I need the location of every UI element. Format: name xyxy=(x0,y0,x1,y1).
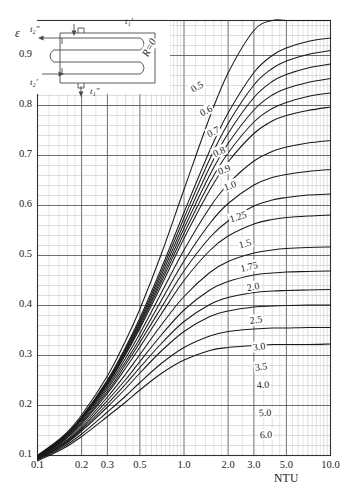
curve-label-40: 4.0 xyxy=(255,378,270,390)
y-tick-label-01: 0.1 xyxy=(2,448,32,459)
inset-label-t2-double-prime: t₂″ xyxy=(30,24,39,34)
x-tick-label-10: 1.0 xyxy=(164,459,204,470)
y-tick-label-03: 0.3 xyxy=(2,348,32,359)
x-tick-label-50: 5.0 xyxy=(266,459,306,470)
x-axis-title: NTU xyxy=(274,472,299,484)
x-tick-label-01: 0.1 xyxy=(18,459,58,470)
y-tick-label-07: 0.7 xyxy=(2,148,32,159)
heat-exchanger-inset-diagram xyxy=(0,0,347,499)
y-tick-label-02: 0.2 xyxy=(2,398,32,409)
y-axis-symbol: ε xyxy=(15,26,20,41)
chart-root: εNTU0.90.80.70.60.50.40.30.20.10.10.20.3… xyxy=(0,0,347,499)
curve-label-20: 2.0 xyxy=(245,279,261,293)
curve-label-60: 6.0 xyxy=(258,428,273,439)
curve-label-50: 5.0 xyxy=(257,407,272,419)
inset-label-t1-double-prime: t₁″ xyxy=(90,86,99,96)
inset-label-t1-prime: t₁′ xyxy=(125,16,133,26)
curve-label-35: 3.5 xyxy=(253,360,269,372)
x-tick-label-100: 10.0 xyxy=(311,459,347,470)
y-tick-label-08: 0.8 xyxy=(2,98,32,109)
y-tick-label-04: 0.4 xyxy=(2,298,32,309)
inset-label-t2-prime: t₂′ xyxy=(30,77,38,87)
curve-label-25: 2.5 xyxy=(248,312,264,325)
y-tick-label-05: 0.5 xyxy=(2,248,32,259)
y-tick-label-06: 0.6 xyxy=(2,198,32,209)
curve-label-30: 3.0 xyxy=(251,340,267,353)
y-tick-label-09: 0.9 xyxy=(2,48,32,59)
x-tick-label-05: 0.5 xyxy=(120,459,160,470)
